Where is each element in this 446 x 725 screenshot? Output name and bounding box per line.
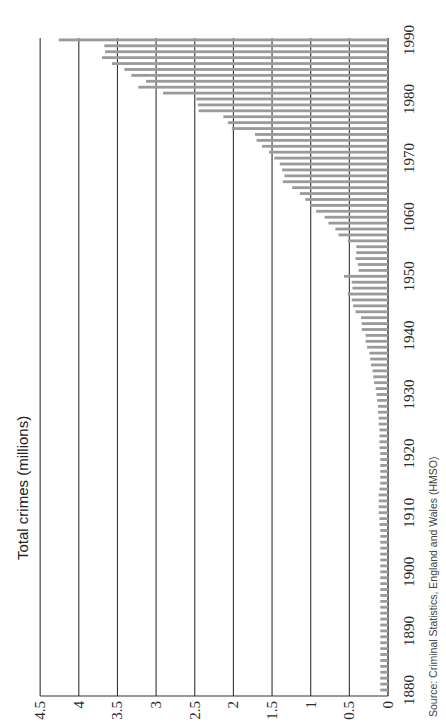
- x-tick-label: 1990: [401, 25, 417, 55]
- bar-1974: [255, 133, 388, 136]
- bar-1955: [356, 245, 388, 248]
- bar-1899: [380, 576, 388, 579]
- bar-1988: [105, 50, 388, 53]
- bar-1907: [380, 529, 388, 532]
- bar-1961: [316, 210, 388, 213]
- bar-1970: [274, 157, 388, 160]
- bar-1960: [325, 216, 388, 219]
- bar-1911: [379, 505, 388, 508]
- bar-1881: [380, 683, 388, 686]
- bar-1934: [373, 369, 388, 372]
- bar-1933: [373, 375, 388, 378]
- bar-1922: [379, 440, 388, 443]
- bar-chart: 00.511.522.533.544.5 1880189019001910192…: [0, 0, 446, 725]
- bar-1932: [374, 381, 388, 384]
- bar-1938: [367, 346, 388, 349]
- x-tick-label: 1930: [401, 380, 417, 410]
- bar-1989: [104, 44, 388, 47]
- y-axis-tick-labels: 00.511.522.533.544.5: [32, 701, 396, 720]
- bar-1971: [269, 151, 388, 154]
- bar-1917: [380, 470, 388, 473]
- bar-1884: [380, 665, 388, 668]
- bar-1942: [362, 322, 388, 325]
- bar-1976: [228, 121, 388, 124]
- bar-1962: [310, 204, 388, 207]
- chart-title: Total crimes (millions): [14, 416, 31, 560]
- bar-1979: [198, 104, 388, 107]
- bar-1990: [59, 39, 388, 42]
- bar-1967: [284, 174, 388, 177]
- y-tick-label: 0.5: [341, 701, 357, 720]
- y-tick-label: 3: [148, 701, 164, 709]
- bar-1959: [328, 222, 388, 225]
- bar-1945: [353, 304, 388, 307]
- bar-1956: [348, 239, 388, 242]
- bar-1909: [379, 517, 388, 520]
- y-tick-label: 1: [303, 701, 319, 709]
- bar-1969: [280, 163, 388, 166]
- bar-1987: [102, 56, 388, 59]
- bar-1980: [196, 98, 388, 101]
- bar-1966: [283, 180, 388, 183]
- bar-1946: [352, 299, 388, 302]
- bar-1903: [380, 553, 388, 556]
- bar-1981: [163, 92, 388, 95]
- bar-1908: [379, 523, 388, 526]
- bar-1977: [223, 115, 388, 118]
- y-tick-label: 4.5: [32, 701, 48, 720]
- bar-1919: [380, 458, 388, 461]
- x-tick-label: 1910: [401, 498, 417, 528]
- x-tick-label: 1940: [401, 320, 417, 350]
- bar-1895: [380, 600, 388, 603]
- bar-1978: [199, 109, 388, 112]
- bar-1891: [380, 624, 388, 627]
- bar-1948: [352, 287, 388, 290]
- bar-1963: [305, 198, 388, 201]
- bar-1968: [282, 169, 388, 172]
- bar-1983: [146, 80, 388, 83]
- bar-1931: [376, 387, 388, 390]
- bar-1904: [380, 547, 388, 550]
- x-tick-label: 1950: [401, 261, 417, 291]
- bar-1905: [380, 541, 388, 544]
- bar-1937: [369, 352, 388, 355]
- y-tick-label: 0: [380, 701, 396, 709]
- bar-1952: [358, 263, 388, 266]
- bar-1940: [366, 334, 388, 337]
- bar-1898: [380, 582, 388, 585]
- y-tick-label: 4: [71, 701, 87, 709]
- bar-1984: [131, 74, 388, 77]
- y-tick-label: 2: [225, 701, 241, 709]
- bar-1944: [356, 310, 388, 313]
- bar-1986: [112, 62, 388, 65]
- bar-1929: [377, 399, 388, 402]
- bar-1957: [339, 234, 388, 237]
- bars: [59, 39, 388, 692]
- x-tick-label: 1980: [401, 84, 417, 114]
- bar-1901: [380, 564, 388, 567]
- bar-1900: [380, 570, 388, 573]
- bar-1982: [138, 86, 388, 89]
- bar-1889: [380, 635, 388, 638]
- y-tick-label: 3.5: [109, 701, 125, 720]
- bar-1902: [380, 559, 388, 562]
- bar-1912: [379, 499, 388, 502]
- bar-1953: [356, 257, 388, 260]
- bar-1882: [380, 677, 388, 680]
- bar-1985: [124, 68, 388, 71]
- bar-1927: [378, 411, 388, 414]
- bar-1896: [380, 594, 388, 597]
- bar-1975: [232, 127, 388, 130]
- x-tick-label: 1900: [401, 557, 417, 587]
- bar-1925: [379, 423, 388, 426]
- bar-1883: [380, 671, 388, 674]
- chart-stage: 00.511.522.533.544.5 1880189019001910192…: [0, 0, 446, 725]
- bar-1914: [379, 488, 388, 491]
- bar-1973: [257, 139, 388, 142]
- bar-1921: [379, 446, 388, 449]
- y-tick-label: 2.5: [187, 701, 203, 720]
- bar-1941: [362, 328, 388, 331]
- bar-1880: [380, 689, 388, 692]
- bar-1935: [371, 364, 388, 367]
- bar-1923: [379, 434, 388, 437]
